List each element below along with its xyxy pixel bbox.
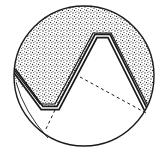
thread-detail-figure (0, 0, 163, 157)
stippled-material-region (0, 0, 163, 113)
dashed-line-root (45, 110, 55, 131)
detail-diagram (0, 0, 163, 157)
